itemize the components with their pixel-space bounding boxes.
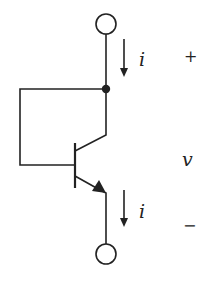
current-label-bottom: i	[139, 202, 145, 221]
top-terminal-icon	[96, 14, 116, 34]
voltage-label: v	[182, 150, 193, 169]
voltage-minus-sign: −	[183, 218, 196, 234]
circuit-schematic	[0, 0, 212, 286]
collector-lead	[75, 89, 106, 151]
circuit-diagram: i i + v −	[0, 0, 212, 286]
current-arrow-bottom-head-icon	[120, 218, 128, 227]
junction-node-icon	[102, 85, 110, 93]
collector-base-short-wire	[20, 89, 106, 165]
current-arrow-top-head-icon	[120, 68, 128, 77]
voltage-plus-sign: +	[184, 49, 197, 65]
bottom-terminal-icon	[96, 244, 116, 264]
current-label-top: i	[139, 50, 145, 69]
